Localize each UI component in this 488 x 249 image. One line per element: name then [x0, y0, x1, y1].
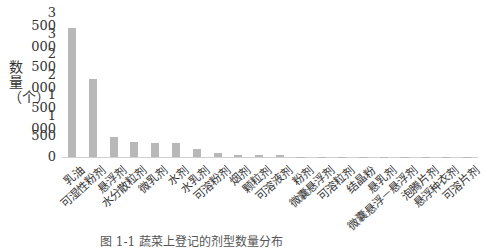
bar	[359, 157, 367, 158]
bar	[463, 157, 471, 158]
y-axis-label: 数量（个）	[8, 60, 24, 105]
bar	[89, 79, 97, 157]
bar	[338, 157, 346, 158]
bar	[151, 143, 159, 157]
bar	[214, 153, 222, 157]
figure-caption: 图 1-1 蔬菜上登记的剂型数量分布	[100, 232, 283, 249]
bar	[234, 155, 242, 157]
y-tick-label: 0	[24, 150, 56, 163]
x-axis-line	[62, 157, 478, 158]
bar	[68, 28, 76, 157]
bar	[380, 157, 388, 158]
bar	[318, 157, 326, 158]
bar	[255, 155, 263, 157]
y-tick-label: 3 500	[24, 6, 56, 32]
bar	[276, 155, 284, 157]
bar	[130, 142, 138, 157]
bar	[172, 143, 180, 157]
bar	[442, 157, 450, 158]
bar	[193, 149, 201, 157]
bar	[401, 157, 409, 158]
bar	[422, 157, 430, 158]
bar	[110, 137, 118, 157]
bar	[297, 157, 305, 158]
